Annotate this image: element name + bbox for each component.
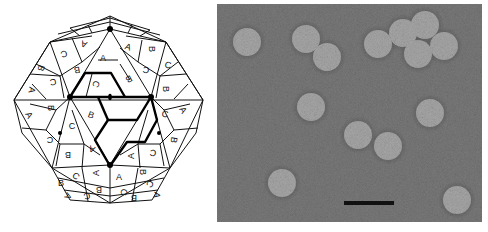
subunit-label-b: B xyxy=(96,185,102,195)
fivefold-axis-dot-bottom xyxy=(107,162,113,168)
subunit-label-b: B xyxy=(131,193,137,203)
icosahedral-capsid-diagram: CABBCAAABBCCBCBABCCBACABACBCABACABCCBA xyxy=(0,0,212,232)
subunit-label-c: C xyxy=(69,121,76,131)
virus-particle xyxy=(430,32,458,60)
virus-particle xyxy=(374,132,402,160)
subunit-label-a: A xyxy=(123,41,132,52)
subunit-label-c: C xyxy=(46,135,53,145)
subunit-label-c: C xyxy=(59,48,69,60)
subunit-label-b: B xyxy=(86,109,95,120)
fivefold-axis-dot xyxy=(107,26,113,32)
virus-particle xyxy=(364,30,392,58)
subunit-label-a: A xyxy=(27,86,38,94)
figure: CABBCAAABBCCBCBABCCBACABACBCABACABCCBA xyxy=(0,0,488,232)
subunit-label-c: C xyxy=(48,77,57,88)
subunit-label-a: A xyxy=(79,38,88,49)
subunit-label-b: B xyxy=(138,169,148,175)
threefold-axis-dot-left xyxy=(67,94,73,100)
subunit-label-a: A xyxy=(87,143,96,154)
twofold-axis-dot-right xyxy=(157,131,161,135)
virus-particle xyxy=(404,40,432,68)
subunit-label-c: C xyxy=(164,60,173,71)
subunit-label-a: A xyxy=(100,53,106,63)
virus-particle xyxy=(233,28,261,56)
subunit-label-c: C xyxy=(82,190,92,202)
subunit-label-a: A xyxy=(91,170,101,176)
threefold-axis-dot-right xyxy=(148,94,154,100)
twofold-axis-marker xyxy=(108,94,112,100)
virus-particle xyxy=(344,121,372,149)
twofold-axis-dot-left xyxy=(58,131,62,135)
subunit-label-b: B xyxy=(161,86,171,92)
subunit-label-b: B xyxy=(73,65,81,76)
subunit-label-b: B xyxy=(124,73,134,85)
electron-micrograph xyxy=(217,4,482,222)
subunit-label-a: A xyxy=(62,191,74,201)
electron-micrograph-panel xyxy=(217,4,482,222)
subunit-label-b: B xyxy=(65,150,71,160)
subunit-label-c: C xyxy=(141,64,150,75)
scale-bar xyxy=(344,201,394,205)
virus-particle xyxy=(411,11,439,39)
virus-particle xyxy=(268,169,296,197)
virus-particle xyxy=(416,99,444,127)
subunit-label-b: B xyxy=(46,105,56,111)
subunit-label-b: B xyxy=(58,178,64,188)
subunit-label-c: C xyxy=(148,147,157,158)
virus-particle xyxy=(443,186,471,214)
subunit-label-c: C xyxy=(90,79,102,89)
subunit-label-c: C xyxy=(118,187,130,197)
subunit-label-b: B xyxy=(147,46,157,52)
subunit-label-b: B xyxy=(169,136,180,144)
virus-particle xyxy=(297,93,325,121)
capsid-diagram-panel: CABBCAAABBCCBCBABCCBACABACBCABACABCCBA xyxy=(0,0,212,232)
subunit-label-a: A xyxy=(126,153,136,159)
subunit-label-a: A xyxy=(116,172,122,182)
capsid-outline xyxy=(14,16,203,203)
subunit-label-b: B xyxy=(35,63,46,72)
virus-particle xyxy=(313,43,341,71)
